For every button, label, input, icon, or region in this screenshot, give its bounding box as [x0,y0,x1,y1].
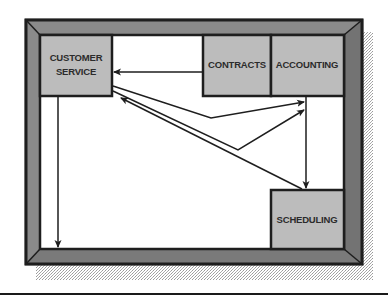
dept-customer-service: CUSTOMER SERVICE [40,35,112,96]
dept-scheduling: SCHEDULING [271,190,344,249]
dept-label-accounting: ACCOUNTING [276,59,338,70]
bottom-rule [0,293,388,295]
office-flow-diagram: CUSTOMER SERVICE CONTRACTS ACCOUNTING SC… [0,0,388,297]
dept-accounting: ACCOUNTING [271,35,344,96]
dept-contracts: CONTRACTS [203,35,271,96]
dept-label-scheduling: SCHEDULING [277,214,338,225]
dept-label-service: SERVICE [56,66,96,77]
dept-label-contracts: CONTRACTS [208,59,266,70]
dept-label-customer: CUSTOMER [50,52,103,63]
